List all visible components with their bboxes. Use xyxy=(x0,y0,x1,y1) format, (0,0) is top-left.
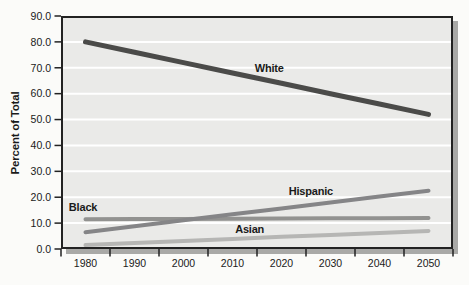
y-tick-label: 60.0 xyxy=(31,87,52,99)
x-tick-label: 2020 xyxy=(270,257,294,269)
y-axis-title: Percent of Total xyxy=(9,92,21,175)
y-tick-label: 50.0 xyxy=(31,113,52,125)
y-tick-label: 90.0 xyxy=(31,10,52,22)
y-tick-label: 20.0 xyxy=(31,191,52,203)
x-tick-label: 2010 xyxy=(221,257,245,269)
x-tick-label: 2030 xyxy=(319,257,343,269)
y-tick-label: 80.0 xyxy=(31,36,52,48)
chart-root: Percent of Total 90.080.070.060.050.040.… xyxy=(0,0,469,285)
plot-area xyxy=(61,16,453,249)
y-tick-label: 0.0 xyxy=(36,243,51,255)
y-tick-label: 40.0 xyxy=(31,139,52,151)
x-tick-label: 2050 xyxy=(417,257,441,269)
x-tick-label: 2000 xyxy=(172,257,196,269)
x-tick-label: 2040 xyxy=(368,257,392,269)
y-tick-label: 70.0 xyxy=(31,62,52,74)
y-tick-label: 30.0 xyxy=(31,165,52,177)
x-tick-label: 1990 xyxy=(123,257,147,269)
x-tick-label: 1980 xyxy=(74,257,98,269)
y-tick-label: 10.0 xyxy=(31,217,52,229)
